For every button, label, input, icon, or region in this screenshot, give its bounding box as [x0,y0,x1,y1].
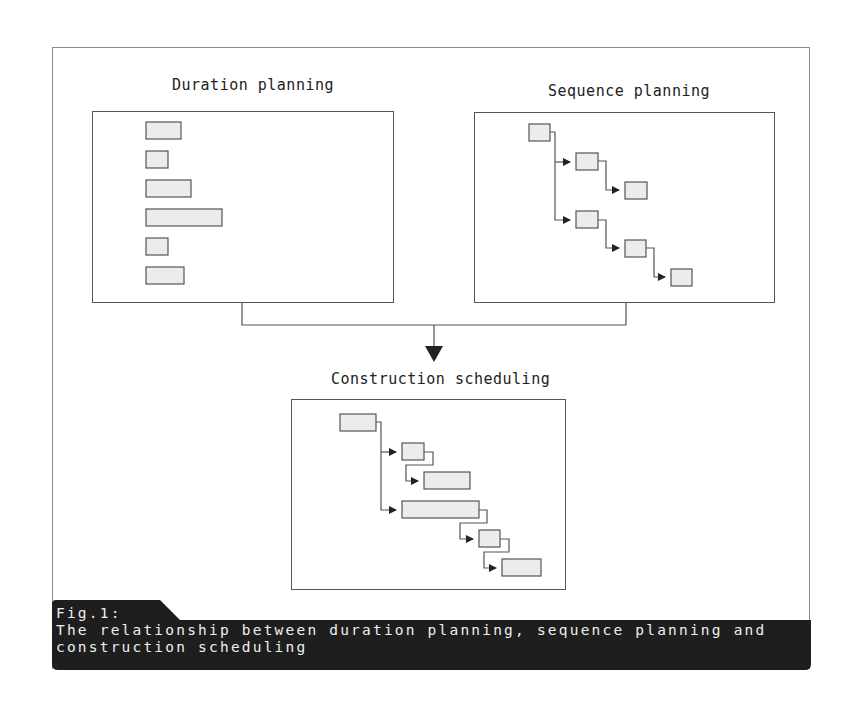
duration-bar [146,151,168,168]
schedule-bar [340,414,376,431]
schedule-bar [502,559,541,576]
caption-line-1: The relationship between duration planni… [56,622,766,638]
sequence-node [576,153,598,170]
sequence-node [625,182,647,199]
duration-bar [146,267,184,284]
sequence-node [671,269,692,286]
figure-caption: Fig.1: The relationship between duration… [56,605,766,656]
caption-label: Fig.1: [56,605,122,621]
caption-line-2: construction scheduling [56,639,307,655]
down-arrow-icon [425,346,443,362]
schedule-bar [424,472,470,489]
schedule-bar [479,530,500,547]
sequence-node [576,211,598,228]
schedule-bar [402,501,479,518]
duration-bar [146,180,191,197]
duration-bar [146,238,168,255]
duration-bar [146,209,222,226]
sequence-node [625,240,646,257]
sequence-node [529,124,550,141]
schedule-bar [402,443,424,460]
duration-bar [146,122,181,139]
